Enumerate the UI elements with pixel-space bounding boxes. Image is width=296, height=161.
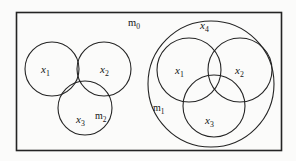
left-circle-x1 — [25, 42, 79, 96]
label-left-x3: x3 — [75, 113, 85, 128]
label-left-x2: x2 — [99, 63, 109, 78]
right-circle-x3 — [183, 75, 245, 137]
venn-diagram-canvas: m0 x1 x2 x3 m2 x4 x1 x2 x3 m1 — [0, 0, 296, 161]
right-circle-x1 — [157, 38, 221, 102]
left-circle-x3 — [58, 81, 112, 135]
universe-frame — [17, 13, 282, 151]
label-left-x1: x1 — [40, 63, 50, 78]
label-right-x2: x2 — [234, 64, 244, 79]
venn-figure: m0 x1 x2 x3 m2 x4 x1 x2 x3 m1 — [0, 0, 296, 161]
label-m2: m2 — [95, 110, 107, 124]
label-m0: m0 — [128, 17, 140, 31]
label-right-x1: x1 — [174, 64, 184, 79]
label-right-x3: x3 — [204, 114, 214, 129]
